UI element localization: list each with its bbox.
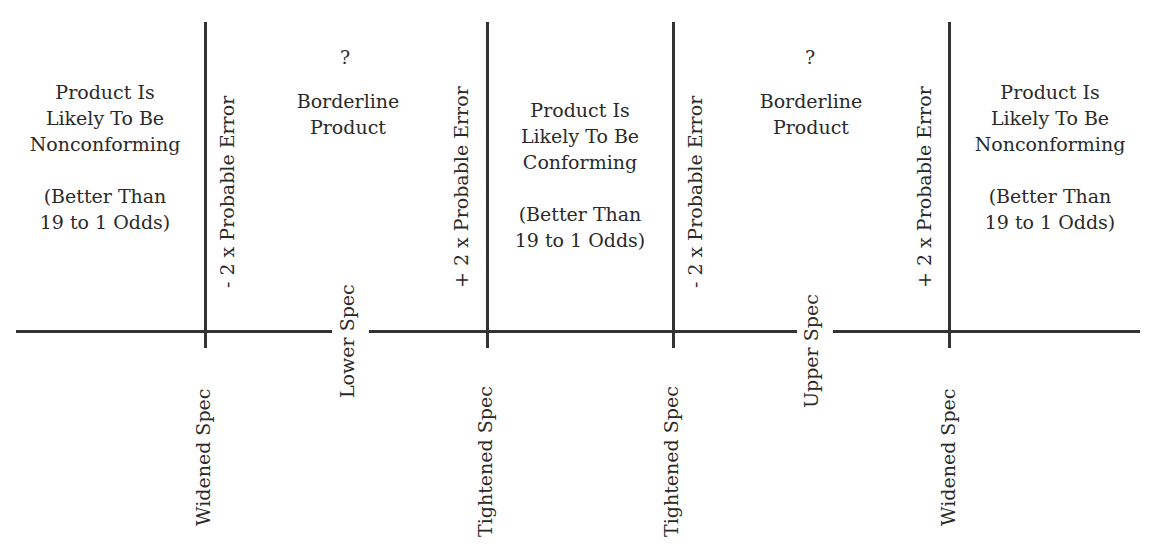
zone-text: Product [268, 114, 428, 140]
axis-segment-3 [833, 330, 1140, 333]
odds-text: (Better Than [955, 183, 1145, 209]
zone-text: Borderline [268, 88, 428, 114]
zone-text: Product Is [10, 79, 200, 105]
tightened-spec-right-label: Tightened Spec [660, 386, 682, 537]
zone-left-borderline: Borderline Product [268, 88, 428, 140]
zone-right-nonconforming: Product Is Likely To Be Nonconforming (B… [955, 79, 1145, 235]
zone-text: Likely To Be [10, 105, 200, 131]
zone-left-nonconforming: Product Is Likely To Be Nonconforming (B… [10, 79, 200, 235]
axis-segment-2 [369, 330, 797, 333]
zone-text: Likely To Be [495, 123, 665, 149]
zone-right-borderline: Borderline Product [731, 88, 891, 140]
zone-text: Borderline [731, 88, 891, 114]
widened-spec-right-label: Widened Spec [937, 389, 959, 526]
zone-text: Conforming [495, 149, 665, 175]
zone-text: Nonconforming [955, 131, 1145, 157]
odds-text: 19 to 1 Odds) [495, 227, 665, 253]
zone-text: Nonconforming [10, 131, 200, 157]
zone-text: Product Is [955, 79, 1145, 105]
tightened-spec-left-line [486, 22, 489, 348]
axis-segment-1 [16, 330, 332, 333]
plus-2-probable-error-right: + 2 x Probable Error [913, 86, 935, 288]
tightened-spec-right-line [672, 22, 675, 348]
minus-2-probable-error-right: - 2 x Probable Error [684, 96, 706, 288]
minus-2-probable-error-left: - 2 x Probable Error [216, 96, 238, 288]
question-mark-right: ? [805, 46, 815, 68]
zone-text: Product Is [495, 97, 665, 123]
tightened-spec-left-label: Tightened Spec [474, 386, 496, 537]
zone-text: Product [731, 114, 891, 140]
odds-text: 19 to 1 Odds) [10, 209, 200, 235]
upper-spec-label: Upper Spec [800, 294, 822, 408]
plus-2-probable-error-left: + 2 x Probable Error [450, 86, 472, 288]
zone-text: Likely To Be [955, 105, 1145, 131]
widened-spec-right-line [948, 22, 951, 348]
odds-text: (Better Than [495, 201, 665, 227]
question-mark-left: ? [340, 46, 350, 68]
odds-text: 19 to 1 Odds) [955, 209, 1145, 235]
widened-spec-left-label: Widened Spec [192, 389, 214, 526]
zone-center-conforming: Product Is Likely To Be Conforming (Bett… [495, 97, 665, 253]
lower-spec-label: Lower Spec [336, 284, 358, 398]
widened-spec-left-line [204, 22, 207, 348]
odds-text: (Better Than [10, 183, 200, 209]
